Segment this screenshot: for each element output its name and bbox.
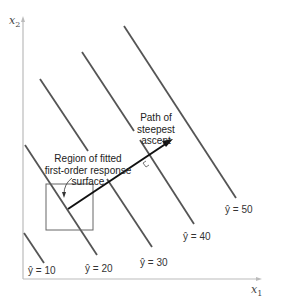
contour-lines: [24, 26, 236, 263]
axes: [21, 16, 262, 281]
contour-line-40a: [82, 52, 134, 131]
contour-label-20: ŷ = 20: [85, 263, 113, 274]
contour-label-40: ŷ = 40: [183, 231, 211, 242]
contour-label-50: ŷ = 50: [225, 204, 253, 215]
contour-line-30b: [107, 179, 152, 247]
contour-line-10: [24, 233, 44, 263]
path-of-steepest-ascent-label: Path of steepest ascent: [133, 112, 179, 147]
region-label: Region of fitted first-order response su…: [40, 153, 136, 188]
right-angle-marker: [143, 161, 149, 167]
contour-label-10: ŷ = 10: [28, 265, 56, 276]
contour-line-30a: [40, 79, 88, 151]
contour-line-40b: [140, 140, 194, 224]
x-axis-label: x1: [251, 283, 262, 298]
y-axis-label: x2: [9, 14, 20, 29]
contour-label-30: ŷ = 30: [140, 257, 168, 268]
